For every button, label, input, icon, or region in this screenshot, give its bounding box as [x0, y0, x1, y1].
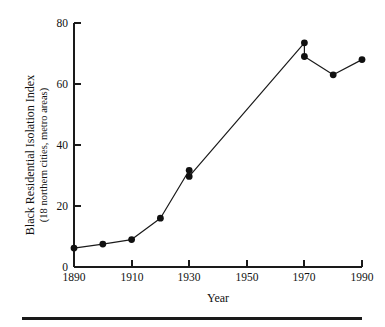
data-point	[128, 236, 135, 243]
y-tick-label-20: 20	[57, 200, 69, 212]
x-tick-label-1910: 1910	[121, 271, 144, 283]
data-point	[186, 173, 193, 180]
y-tick-label-60: 60	[57, 78, 69, 90]
y-axis-title: Black Residential Isolation Index	[23, 75, 37, 235]
data-point	[186, 167, 193, 174]
data-point	[71, 245, 78, 252]
y-axis-subtitle: (18 northern cities, metro areas)	[38, 87, 50, 222]
data-point	[301, 39, 308, 46]
figure-container: Black Residential Isolation Index (18 no…	[0, 0, 385, 327]
data-point	[359, 56, 366, 63]
y-axis-ticks	[74, 23, 81, 267]
y-tick-label-80: 80	[57, 17, 69, 29]
data-point	[330, 71, 337, 78]
data-point	[157, 215, 164, 222]
x-tick-label-1930: 1930	[178, 271, 201, 283]
x-tick-label-1890: 1890	[63, 271, 86, 283]
y-tick-label-40: 40	[57, 139, 69, 151]
x-tick-label-1990: 1990	[351, 271, 374, 283]
series-line	[74, 43, 362, 248]
x-axis-ticks	[74, 260, 362, 267]
series-markers	[71, 39, 366, 251]
data-point	[99, 241, 106, 248]
line-chart: Black Residential Isolation Index (18 no…	[0, 0, 385, 327]
x-tick-label-1950: 1950	[236, 271, 259, 283]
bottom-rule	[22, 317, 362, 320]
data-point	[301, 53, 308, 60]
x-axis-title: Year	[207, 291, 229, 305]
x-tick-label-1970: 1970	[293, 271, 316, 283]
